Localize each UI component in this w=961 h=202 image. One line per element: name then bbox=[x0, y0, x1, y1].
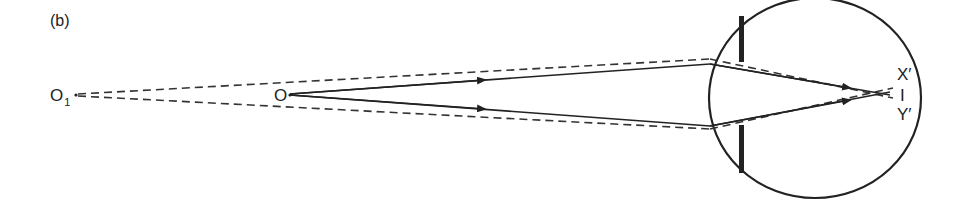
far-object-letter: O bbox=[50, 86, 63, 105]
optics-diagram-svg bbox=[0, 0, 961, 202]
panel-label: (b) bbox=[50, 13, 70, 29]
iris-lower bbox=[739, 125, 744, 173]
image-bottom-label: Y′ bbox=[897, 106, 912, 123]
near-object-label: O bbox=[274, 87, 287, 104]
image-mid-label: I bbox=[900, 87, 905, 104]
iris-upper bbox=[739, 16, 744, 62]
far-object-label: O1 bbox=[50, 87, 70, 104]
object-point-o bbox=[288, 93, 291, 96]
image-top-label: X′ bbox=[897, 66, 912, 83]
dashed-rays bbox=[78, 59, 893, 129]
object-point-o1 bbox=[74, 93, 77, 96]
solid-rays bbox=[290, 64, 890, 126]
far-object-subscript: 1 bbox=[64, 96, 70, 108]
